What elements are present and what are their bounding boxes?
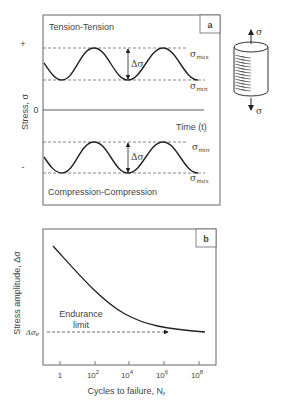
delta-sigma-label-bottom: Δσ (131, 152, 144, 162)
panel-b-tag: b (203, 234, 209, 244)
compression-compression-title: Compression-Compression (48, 187, 157, 197)
tension-wave (44, 48, 198, 80)
panel-b: b Stress amplitude, Δσ Δσe Endurance lim… (12, 229, 216, 397)
xtick-label-10e8: 108 (191, 369, 204, 380)
ytick-plus: + (20, 39, 25, 49)
compression-wave (44, 142, 198, 173)
ytick-zero: 0 (33, 105, 38, 115)
endurance-label-line2: limit (73, 320, 89, 330)
endurance-label-line1: Endurance (59, 309, 103, 319)
endurance-symbol: Δσe (25, 329, 40, 337)
figure: a Tension-Tension + 0 - Stress, σ Time (… (0, 0, 281, 414)
panel-b-xlabel: Cycles to failure, Nf (87, 386, 166, 397)
sigma-min-label-top: σmin (190, 81, 208, 92)
xtick-label-1: 1 (58, 371, 63, 380)
sigma-min-label-bottom: σmin (192, 142, 210, 153)
ytick-minus: - (22, 162, 25, 172)
tension-tension-title: Tension-Tension (49, 22, 114, 32)
panel-a: a Tension-Tension + 0 - Stress, σ Time (… (20, 15, 220, 205)
x-ticks (60, 361, 199, 365)
panel-a-ylabel: Stress, σ (20, 94, 30, 131)
sigma-max-label-bottom: σmax (190, 173, 209, 184)
specimen-cylinder-icon: σ σ (234, 27, 268, 116)
xtick-label-10e4: 104 (121, 369, 134, 380)
panel-b-frame (43, 229, 216, 365)
xtick-label-10e6: 106 (156, 369, 169, 380)
sigma-max-label-top: σmax (190, 49, 209, 60)
specimen-sigma-top: σ (256, 27, 262, 37)
time-axis-label: Time (t) (176, 122, 207, 132)
delta-sigma-label-top: Δσ (131, 59, 144, 69)
panel-b-ylabel: Stress amplitude, Δσ (12, 251, 22, 335)
xtick-label-10e2: 102 (87, 369, 100, 380)
specimen-sigma-bottom: σ (256, 106, 262, 116)
